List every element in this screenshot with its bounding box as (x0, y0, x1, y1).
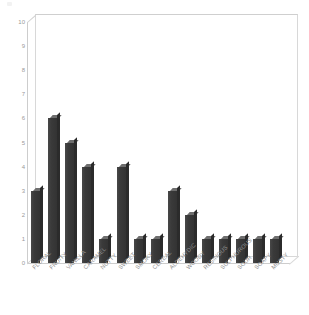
y-axis-tick-label: 4 (3, 164, 25, 170)
y-axis-tick-label: 6 (3, 115, 25, 121)
bar-chart: 109876543210 FLORALFRUITYVANILLACARAMELN… (0, 0, 309, 315)
bar-side-face (177, 185, 180, 260)
y-axis-tick-label: 8 (3, 67, 25, 73)
bar-side-face (91, 161, 94, 260)
bar-side-face (74, 137, 77, 260)
y-axis-tick-label: 1 (3, 236, 25, 242)
bar-front-face[interactable] (31, 191, 40, 263)
bar-side-face (194, 209, 197, 260)
y-axis-tick-label: 3 (3, 188, 25, 194)
bar-column[interactable] (65, 143, 74, 264)
bar-side-face (40, 185, 43, 260)
bar-column[interactable] (117, 167, 126, 263)
bar-side-face (57, 113, 60, 260)
bar-front-face[interactable] (117, 167, 126, 263)
depth-edge-bottom-right (289, 256, 299, 265)
bar-front-face[interactable] (82, 167, 91, 263)
bar-column[interactable] (82, 167, 91, 263)
y-axis-tick-label: 7 (3, 91, 25, 97)
y-axis: 109876543210 (0, 0, 25, 315)
bar-column[interactable] (31, 191, 40, 263)
y-axis-tick-label: 2 (3, 212, 25, 218)
bar-column[interactable] (48, 118, 57, 263)
bar-front-face[interactable] (65, 143, 74, 264)
bar-top-face (50, 115, 62, 118)
y-axis-tick-label: 9 (3, 43, 25, 49)
y-axis-tick-label: 10 (3, 19, 25, 25)
bar-top-face (221, 236, 233, 239)
bar-side-face (126, 161, 129, 260)
y-axis-tick-label: 5 (3, 140, 25, 146)
bar-front-face[interactable] (48, 118, 57, 263)
plot-area (27, 22, 290, 263)
y-axis-tick-label: 0 (3, 260, 25, 266)
